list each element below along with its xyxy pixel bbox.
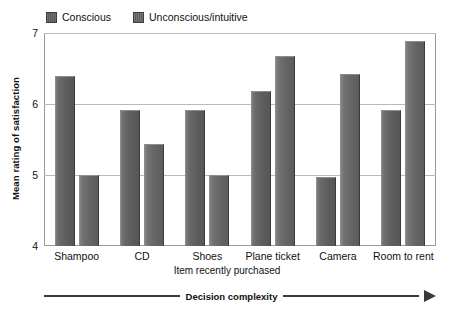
x-tick-label-shoes: Shoes: [192, 250, 222, 262]
bar-camera-unconscious: [340, 74, 360, 246]
plot-area: 4567: [44, 33, 436, 246]
bar-room-to-rent-unconscious: [405, 41, 425, 246]
bar-plane-ticket-conscious: [251, 91, 271, 246]
complexity-line-left: [44, 295, 180, 297]
y-tick-label-5: 5: [32, 169, 38, 181]
bar-shoes-conscious: [185, 110, 205, 246]
bar-shampoo-conscious: [55, 76, 75, 246]
x-tick-label-cd: CD: [134, 250, 149, 262]
decision-complexity-annotation: Decision complexity: [44, 287, 436, 305]
bar-chart-figure: Conscious Unconscious/intuitive Mean rat…: [0, 0, 454, 313]
y-tick-label-6: 6: [32, 98, 38, 110]
legend-label-conscious: Conscious: [62, 12, 111, 23]
legend-label-unconscious: Unconscious/intuitive: [149, 12, 248, 23]
bar-cd-conscious: [120, 110, 140, 246]
bar-shampoo-unconscious: [79, 175, 99, 246]
chart-legend: Conscious Unconscious/intuitive: [46, 8, 248, 26]
y-tick-label-7: 7: [32, 27, 38, 39]
x-axis-title-text: Item recently purchased: [174, 265, 281, 276]
y-tick-label-4: 4: [32, 240, 38, 252]
x-tick-label-shampoo: Shampoo: [54, 250, 99, 262]
gridline-5: [44, 175, 436, 176]
x-tick-label-plane-ticket: Plane ticket: [246, 250, 300, 262]
legend-swatch-icon-unconscious: [133, 12, 144, 23]
arrow-right-icon: [424, 290, 436, 302]
x-axis-title: Item recently purchased: [0, 265, 454, 276]
gridline-6: [44, 104, 436, 105]
y-axis-title-text: Mean rating of satisfaction: [11, 76, 22, 199]
gridline-7: [44, 33, 436, 34]
legend-entry-unconscious: Unconscious/intuitive: [133, 12, 248, 23]
legend-entry-conscious: Conscious: [46, 12, 111, 23]
x-tick-label-room-to-rent: Room to rent: [373, 250, 434, 262]
bar-camera-conscious: [316, 177, 336, 246]
x-tick-label-camera: Camera: [319, 250, 356, 262]
bar-cd-unconscious: [144, 144, 164, 246]
y-axis-title: Mean rating of satisfaction: [8, 30, 24, 246]
bar-plane-ticket-unconscious: [275, 56, 295, 246]
bar-room-to-rent-conscious: [381, 110, 401, 246]
complexity-line-right: [283, 295, 419, 297]
complexity-label: Decision complexity: [186, 291, 278, 302]
plot-frame: [44, 33, 436, 246]
legend-swatch-icon-conscious: [46, 12, 57, 23]
bar-shoes-unconscious: [209, 175, 229, 246]
